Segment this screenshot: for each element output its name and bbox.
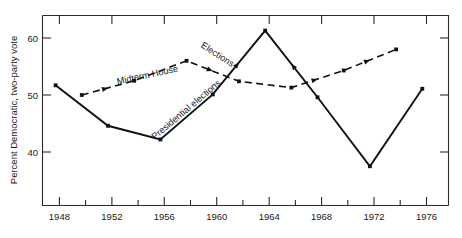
x-tick-label-1956: 1956 [154, 211, 175, 222]
data-point [237, 79, 241, 83]
y-axis-tick-labels: 60 50 40 [27, 33, 38, 158]
series-presidential-elections [54, 29, 425, 168]
y-axis-title: Percent Democratic, two-party vote [8, 36, 19, 184]
data-point [185, 59, 189, 63]
direction-arrow-icon [363, 58, 371, 65]
x-axis-tick-labels: 1948 1952 1956 1960 1964 1968 1972 1976 [49, 211, 437, 222]
x-tick-label-1964: 1964 [259, 211, 280, 222]
x-tick-label-1952: 1952 [101, 211, 122, 222]
y-tick-label-50: 50 [27, 90, 38, 101]
data-point [263, 29, 267, 33]
y-tick-label-40: 40 [27, 147, 38, 158]
x-tick-label-1948: 1948 [49, 211, 70, 222]
data-point [316, 95, 320, 99]
data-point [106, 124, 110, 128]
series-midterm-house-elections [80, 48, 398, 97]
x-tick-label-1972: 1972 [363, 211, 384, 222]
direction-arrow-icon [206, 66, 213, 73]
data-point [342, 69, 346, 73]
x-tick-label-1968: 1968 [311, 211, 332, 222]
y-tick-label-60: 60 [27, 33, 38, 44]
annotation-presidential-elections: Presidential elections [150, 78, 223, 142]
data-point [289, 86, 293, 90]
x-tick-label-1960: 1960 [206, 211, 227, 222]
chart-container: Percent Democratic, two-party vote 60 50… [0, 0, 462, 238]
x-tick-label-1976: 1976 [416, 211, 437, 222]
annotation-midterm-house: Midterm House [116, 64, 179, 87]
annotation-elections: Elections [199, 40, 236, 69]
x-axis-ticks [59, 16, 426, 206]
data-point [368, 164, 372, 168]
line-chart: Percent Democratic, two-party vote 60 50… [0, 0, 462, 238]
data-point [394, 48, 398, 52]
data-point [80, 93, 84, 97]
data-point [54, 83, 58, 87]
plot-frame [43, 16, 449, 206]
data-point [420, 87, 424, 91]
